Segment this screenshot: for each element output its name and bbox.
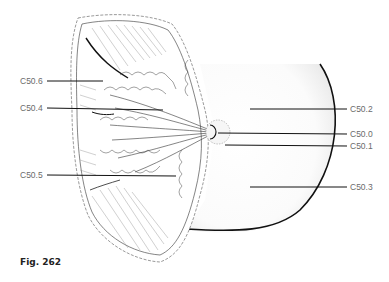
label-c50-5: C50.5 xyxy=(20,170,43,180)
label-c50-2: C50.2 xyxy=(350,104,373,114)
breast-anatomy-illustration xyxy=(0,0,389,282)
label-c50-3: C50.3 xyxy=(350,182,373,192)
label-c50-0: C50.0 xyxy=(350,129,373,139)
nipple-areola xyxy=(206,120,230,144)
breast-contour xyxy=(186,64,335,233)
gland-section xyxy=(71,15,210,262)
figure-caption: Fig. 262 xyxy=(20,257,61,267)
label-c50-1: C50.1 xyxy=(350,141,373,151)
label-c50-4: C50.4 xyxy=(20,103,43,113)
label-c50-6: C50.6 xyxy=(20,76,43,86)
